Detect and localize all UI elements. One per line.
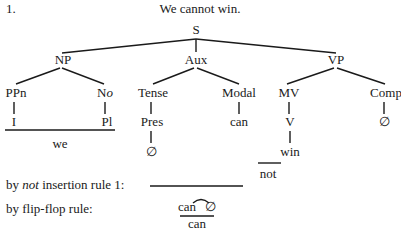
edge-np-no (62, 68, 104, 84)
edge-s-vp (196, 39, 336, 53)
rule-not-insertion-label: by not insertion rule 1: (6, 177, 124, 192)
edge-np-ppn (16, 68, 60, 84)
node-np: NP (55, 52, 72, 67)
node-tense: Tense (138, 85, 168, 100)
leaf-i: I (12, 114, 16, 129)
leaf-win: win (280, 144, 300, 159)
node-pres: Pres (141, 114, 163, 129)
syntax-tree-diagram: 1. We cannot win. S NP Aux VP PPn No Ten… (0, 0, 401, 231)
leaf-can: can (230, 114, 249, 129)
edge-aux-tense (153, 68, 194, 84)
node-mv: MV (279, 85, 301, 100)
example-number: 1. (6, 1, 16, 16)
leaf-tense-null: ∅ (146, 144, 157, 159)
node-modal: Modal (222, 85, 256, 100)
edge-s-np (62, 39, 196, 53)
inserted-not: not (260, 166, 277, 181)
np-realization-we: we (52, 136, 67, 151)
edge-aux-modal (197, 68, 239, 84)
node-ppn: PPn (6, 85, 27, 100)
leaf-pl: Pl (102, 114, 113, 129)
edge-vp-comp (337, 68, 385, 84)
example-sentence: We cannot win. (160, 1, 241, 16)
node-aux: Aux (185, 52, 208, 67)
flip-flop-can: can (178, 199, 197, 214)
leaf-comp-null: ∅ (379, 114, 390, 129)
node-v: V (285, 114, 295, 129)
node-comp: Comp (370, 85, 401, 100)
rule-flip-flop-label: by flip-flop rule: (6, 201, 93, 216)
edge-vp-mv (287, 68, 334, 84)
node-vp: VP (328, 52, 345, 67)
flip-flop-result-can: can (188, 216, 207, 231)
node-number: No (97, 85, 113, 100)
node-s: S (192, 22, 199, 37)
